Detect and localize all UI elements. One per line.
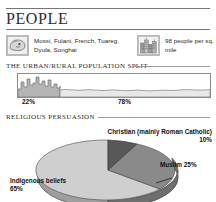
urban-split-value: 22% (22, 98, 35, 105)
face-profile-icon (6, 35, 29, 56)
header-top-divider (6, 8, 210, 9)
pie-label-indigenous: Indigenous beliefs 65% (10, 177, 72, 193)
pie-label-muslim: Muslim 25% (160, 161, 214, 169)
city-buildings-icon (137, 35, 160, 56)
fact-population-density-text: 98 people per sq. mile (165, 37, 215, 53)
page-title: PEOPLE (6, 10, 68, 27)
urban-rural-section-title: THE URBAN/RURAL POPULATION SPLIT (6, 62, 148, 70)
urban-rural-title-rule (133, 66, 210, 67)
pie-label-christian: Christian (mainly Roman Catholic) 10% (104, 128, 212, 144)
religion-title-rule (98, 117, 210, 118)
fact-ethnic-groups-text: Mossi, Fulani, French, Tuareg, Dyula, So… (34, 37, 128, 53)
header-bottom-divider (6, 29, 210, 30)
rural-split-value: 78% (118, 98, 131, 105)
fact-ethnic-groups: Mossi, Fulani, French, Tuareg, Dyula, So… (6, 35, 128, 56)
urban-rural-area-plot (18, 74, 210, 97)
urban-rural-chart (17, 73, 211, 98)
fact-population-density: 98 people per sq. mile (137, 35, 215, 56)
